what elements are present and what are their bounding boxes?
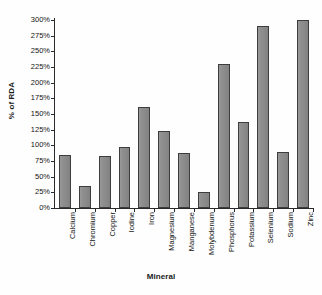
y-axis-tick-mark bbox=[51, 177, 55, 178]
bar-calcium[interactable] bbox=[59, 155, 71, 208]
plot-area bbox=[55, 20, 313, 208]
x-axis-category-label: Sodium bbox=[286, 212, 295, 237]
y-axis-tick-mark bbox=[51, 20, 55, 21]
y-axis-tick-mark bbox=[51, 98, 55, 99]
y-axis-tick-label-group: 0%25%50%75%100%125%150%175%200%225%250%2… bbox=[22, 14, 50, 210]
x-axis-category-label: Zinc bbox=[306, 212, 315, 226]
y-axis-tick-label: 150% bbox=[22, 110, 50, 118]
y-axis-tick-label: 250% bbox=[22, 47, 50, 55]
y-axis-tick-label: 275% bbox=[22, 32, 50, 40]
x-axis-category-label: Calcium bbox=[68, 212, 77, 239]
bar-slot bbox=[95, 20, 115, 208]
bar-iodine[interactable] bbox=[119, 147, 131, 208]
y-axis-tick-label: 125% bbox=[22, 126, 50, 134]
y-axis-tick-mark bbox=[51, 36, 55, 37]
bar-slot bbox=[174, 20, 194, 208]
x-axis-category-label: Potassium bbox=[247, 212, 256, 247]
x-axis-category-label: Molybdenum bbox=[207, 212, 216, 255]
y-axis-tick-mark bbox=[51, 161, 55, 162]
bar-iron[interactable] bbox=[138, 107, 150, 208]
x-axis-title: Mineral bbox=[0, 272, 322, 281]
bar-zinc[interactable] bbox=[297, 20, 309, 208]
x-axis-category-label: Magnesium bbox=[167, 212, 176, 251]
bar-chart-figure: % of RDA 0%25%50%75%100%125%150%175%200%… bbox=[0, 0, 322, 295]
bar-slot bbox=[154, 20, 174, 208]
bar-manganese[interactable] bbox=[178, 153, 190, 208]
bar-slot bbox=[134, 20, 154, 208]
y-axis-tick-label: 75% bbox=[22, 157, 50, 165]
bar-magnesium[interactable] bbox=[158, 131, 170, 208]
y-axis-tick-mark bbox=[51, 208, 55, 209]
bar-slot bbox=[253, 20, 273, 208]
x-axis-category-label: Iron bbox=[147, 212, 156, 225]
y-axis-tick-label: 225% bbox=[22, 63, 50, 71]
y-axis-tick-label: 25% bbox=[22, 188, 50, 196]
bar-slot bbox=[194, 20, 214, 208]
y-axis-tick-mark bbox=[51, 145, 55, 146]
x-axis-category-label: Chromium bbox=[88, 212, 97, 247]
y-axis-tick-mark bbox=[51, 67, 55, 68]
x-axis-category-label: Iodine bbox=[127, 212, 136, 232]
bar-slot bbox=[273, 20, 293, 208]
bar-sodium[interactable] bbox=[277, 152, 289, 208]
x-axis-category-label: Phosphorus bbox=[227, 212, 236, 252]
y-axis-tick-label: 175% bbox=[22, 94, 50, 102]
x-axis-category-label: Selenium bbox=[266, 212, 275, 243]
bar-slot bbox=[75, 20, 95, 208]
bar-potassium[interactable] bbox=[238, 122, 250, 208]
y-axis-tick-label: 300% bbox=[22, 16, 50, 24]
bar-slot bbox=[234, 20, 254, 208]
y-axis-tick-label: 50% bbox=[22, 173, 50, 181]
bar-slot bbox=[214, 20, 234, 208]
bar-selenium[interactable] bbox=[257, 26, 269, 208]
y-axis-tick-mark bbox=[51, 130, 55, 131]
y-axis-tick-label: 0% bbox=[22, 204, 50, 212]
y-axis-tick-label: 100% bbox=[22, 141, 50, 149]
bar-slot bbox=[55, 20, 75, 208]
y-axis-tick-mark bbox=[51, 114, 55, 115]
bar-phosphorus[interactable] bbox=[218, 64, 230, 208]
y-axis-tick-label: 200% bbox=[22, 79, 50, 87]
bar-slot bbox=[115, 20, 135, 208]
bar-copper[interactable] bbox=[99, 156, 111, 208]
bar-molybdenum[interactable] bbox=[198, 192, 210, 208]
y-axis-tick-mark bbox=[51, 192, 55, 193]
bar-chromium[interactable] bbox=[79, 186, 91, 208]
x-axis-category-label: Copper bbox=[108, 212, 117, 237]
x-axis-category-label: Manganese bbox=[187, 212, 196, 251]
y-axis-tick-mark bbox=[51, 51, 55, 52]
bar-slot bbox=[293, 20, 313, 208]
y-axis-title: % of RDA bbox=[7, 66, 16, 136]
y-axis-tick-mark bbox=[51, 83, 55, 84]
